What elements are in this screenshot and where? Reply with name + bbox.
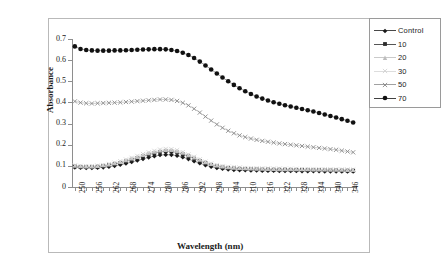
legend-item-50[interactable]: 50 bbox=[370, 78, 440, 92]
legend-marker-icon bbox=[374, 65, 396, 78]
data-point bbox=[180, 50, 185, 55]
legend-item-label: 20 bbox=[396, 53, 407, 62]
data-point bbox=[232, 131, 236, 135]
data-point bbox=[209, 119, 213, 123]
data-point bbox=[311, 109, 316, 114]
data-point bbox=[317, 111, 322, 116]
data-point bbox=[146, 47, 151, 52]
legend-marker-icon bbox=[374, 51, 396, 64]
series-30 bbox=[73, 147, 356, 172]
data-point bbox=[226, 129, 230, 133]
chart-frame: Absorbance 00.10.20.30.40.50.60.7 250256… bbox=[48, 18, 370, 253]
y-tick-label: 0.4 bbox=[40, 97, 66, 106]
series-line bbox=[75, 99, 353, 152]
data-point bbox=[107, 48, 112, 53]
data-point bbox=[90, 48, 95, 53]
data-point bbox=[215, 71, 220, 76]
data-point bbox=[345, 119, 350, 124]
data-point bbox=[288, 104, 293, 109]
legend-marker-icon bbox=[374, 38, 396, 51]
data-point bbox=[198, 110, 202, 114]
data-point bbox=[220, 126, 224, 130]
data-point bbox=[300, 107, 305, 112]
data-point bbox=[192, 107, 196, 111]
data-point bbox=[249, 136, 253, 140]
data-point bbox=[209, 67, 214, 72]
data-point bbox=[118, 48, 123, 53]
legend-item-30[interactable]: 30 bbox=[370, 65, 440, 79]
data-point bbox=[192, 56, 197, 61]
data-point bbox=[101, 48, 106, 53]
legend-item-10[interactable]: 10 bbox=[370, 38, 440, 52]
series-line bbox=[75, 149, 353, 170]
data-point bbox=[249, 92, 254, 97]
legend-item-label: Control bbox=[396, 26, 424, 35]
data-point bbox=[254, 94, 259, 99]
legend-marker-icon bbox=[374, 78, 396, 91]
data-point bbox=[198, 59, 203, 64]
data-point bbox=[237, 86, 242, 91]
data-point bbox=[226, 79, 231, 84]
data-point bbox=[95, 48, 100, 53]
y-tick-label: 0.3 bbox=[40, 118, 66, 127]
y-tick-label: 0.2 bbox=[40, 139, 66, 148]
legend-item-label: 70 bbox=[396, 94, 407, 103]
data-point bbox=[73, 99, 77, 103]
data-point bbox=[215, 122, 219, 126]
data-point bbox=[163, 47, 168, 52]
data-point bbox=[175, 49, 180, 54]
data-point bbox=[220, 75, 225, 80]
data-point bbox=[305, 108, 310, 113]
data-point bbox=[169, 48, 174, 53]
data-point bbox=[334, 115, 339, 120]
data-point bbox=[124, 48, 129, 53]
data-point bbox=[260, 96, 265, 101]
data-point bbox=[351, 120, 356, 125]
data-point bbox=[135, 47, 140, 52]
data-point bbox=[141, 47, 146, 52]
y-axis-title: Absorbance bbox=[45, 67, 55, 113]
series-layer bbox=[72, 39, 372, 189]
chart-legend: Control1020305070 bbox=[369, 18, 441, 108]
data-point bbox=[283, 103, 288, 108]
data-point bbox=[294, 105, 299, 110]
legend-marker-icon bbox=[374, 92, 396, 105]
legend-item-control[interactable]: Control bbox=[370, 24, 440, 38]
data-point bbox=[340, 117, 345, 122]
data-point bbox=[186, 103, 190, 107]
legend-marker-icon bbox=[374, 24, 396, 37]
series-50 bbox=[73, 97, 356, 154]
x-axis-title: Wavelength (nm) bbox=[49, 241, 371, 251]
data-point bbox=[277, 101, 282, 106]
legend-item-label: 50 bbox=[396, 80, 407, 89]
legend-item-label: 10 bbox=[396, 40, 407, 49]
y-tick-label: 0 bbox=[40, 182, 66, 191]
data-point bbox=[243, 89, 248, 94]
data-point bbox=[328, 114, 333, 119]
data-point bbox=[243, 135, 247, 139]
data-point bbox=[237, 133, 241, 137]
data-point bbox=[266, 98, 271, 103]
data-point bbox=[78, 47, 83, 52]
data-point bbox=[181, 101, 185, 105]
series-70 bbox=[73, 44, 356, 125]
y-tick-label: 0.1 bbox=[40, 160, 66, 169]
data-point bbox=[158, 47, 163, 52]
y-tick-label: 0.5 bbox=[40, 76, 66, 85]
data-point bbox=[129, 48, 134, 53]
data-point bbox=[73, 44, 78, 49]
data-point bbox=[203, 63, 208, 68]
data-point bbox=[232, 83, 237, 88]
chart-screenshot: Absorbance 00.10.20.30.40.50.60.7 250256… bbox=[0, 0, 442, 268]
data-point bbox=[203, 114, 207, 118]
y-tick-label: 0.6 bbox=[40, 55, 66, 64]
plot-area: 00.10.20.30.40.50.60.7 25025626226827428… bbox=[72, 39, 356, 187]
data-point bbox=[271, 100, 276, 105]
legend-item-20[interactable]: 20 bbox=[370, 51, 440, 65]
data-point bbox=[152, 47, 157, 52]
data-point bbox=[186, 53, 191, 58]
legend-item-label: 30 bbox=[396, 67, 407, 76]
legend-item-70[interactable]: 70 bbox=[370, 92, 440, 106]
y-tick-label: 0.7 bbox=[40, 34, 66, 43]
data-point bbox=[112, 48, 117, 53]
